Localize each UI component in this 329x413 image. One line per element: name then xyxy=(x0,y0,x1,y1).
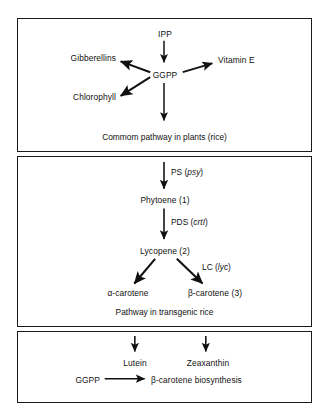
node-alpha-carotene: α-carotene xyxy=(107,288,148,298)
node-beta-carotene: β-carotene (3) xyxy=(188,288,242,298)
gene-name-psy: psy xyxy=(187,167,200,177)
panel-transgenic-arrows xyxy=(18,157,311,326)
node-lutein: Lutein xyxy=(123,358,146,368)
enzyme-label-ps: PS (psy) xyxy=(171,167,203,177)
enzyme-abbrev-pds: PDS xyxy=(171,217,188,227)
enzyme-abbrev-ps: PS xyxy=(171,167,182,177)
pathway-diagram: IPP GGPP Gibberellins Chlorophyll Vitami… xyxy=(0,0,329,413)
arrow-lycopene-to-alpha-carotene xyxy=(134,259,155,284)
arrow-ggpp-to-chlorophyll xyxy=(121,77,151,96)
enzyme-label-pds: PDS (crtI) xyxy=(171,217,208,227)
gene-name-lyc: lyc xyxy=(218,262,228,272)
panel-legend: Lutein Zeaxanthin GGPP β-carotene biosyn… xyxy=(17,331,312,403)
node-legend-biosynthesis: β-carotene biosynthesis xyxy=(151,375,242,385)
panel-common-pathway: IPP GGPP Gibberellins Chlorophyll Vitami… xyxy=(17,18,312,152)
node-vitamin-e: Vitamin E xyxy=(218,55,255,65)
panel-transgenic-pathway: PS (psy) Phytoene (1) PDS (crtI) Lycopen… xyxy=(17,156,312,327)
enzyme-label-lc: LC (lyc) xyxy=(202,262,231,272)
arrow-ggpp-to-gibberellins xyxy=(121,61,151,72)
gene-name-crti: crtI xyxy=(193,217,205,227)
node-chlorophyll: Chlorophyll xyxy=(73,92,116,102)
arrow-ggpp-to-vitamin-e xyxy=(183,63,213,72)
node-lycopene: Lycopene (2) xyxy=(140,246,190,256)
caption-common-pathway: Commom pathway in plants (rice) xyxy=(18,132,311,142)
node-gibberellins: Gibberellins xyxy=(71,53,116,63)
node-legend-ggpp: GGPP xyxy=(75,375,100,385)
node-ipp: IPP xyxy=(158,29,172,39)
caption-transgenic-pathway: Pathway in transgenic rice xyxy=(18,307,311,317)
node-zeaxanthin: Zeaxanthin xyxy=(187,358,229,368)
node-ggpp: GGPP xyxy=(153,70,178,80)
enzyme-abbrev-lc: LC xyxy=(202,262,213,272)
panel-legend-arrows xyxy=(18,332,311,402)
arrow-lycopene-to-beta-carotene xyxy=(177,259,203,284)
node-phytoene: Phytoene (1) xyxy=(140,195,189,205)
